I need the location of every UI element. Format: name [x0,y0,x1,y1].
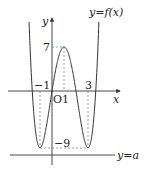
curve-label: y=f(x) [88,6,123,19]
x-axis-label: x [113,93,120,106]
y-tick-neg9: −9 [54,137,70,150]
origin-label: O [53,93,62,106]
function-graph: y=f(x) y x O 1 −1 3 7 −9 y=a [0,0,147,173]
x-tick-3: 3 [85,79,92,92]
x-tick-1: 1 [62,93,69,106]
y-tick-7: 7 [43,41,50,54]
x-tick-neg1: −1 [34,79,50,92]
line-label: y=a [116,149,139,162]
y-axis-label: y [41,15,49,28]
